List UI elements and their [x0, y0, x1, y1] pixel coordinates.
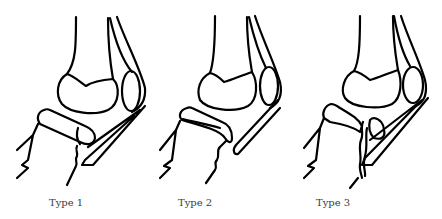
patella — [403, 67, 423, 103]
knee-drawing-type-2 — [160, 16, 281, 183]
femoral-condyle — [198, 72, 256, 110]
patellar-tendon — [82, 106, 145, 165]
knee-drawing-type-1 — [17, 17, 145, 185]
tibial-epiphysis — [38, 109, 95, 144]
panel-label-type-2: Type 2 — [178, 197, 212, 208]
panel-label-type-1: Type 1 — [49, 197, 83, 208]
femoral-condyle — [58, 74, 118, 113]
tibia-posterior-line — [304, 118, 358, 188]
tibia-anterior-line — [364, 128, 367, 176]
quadriceps-tendon-outer — [117, 17, 145, 112]
femoral-condyle — [343, 70, 401, 107]
tibia-anterior-line — [67, 146, 77, 185]
femur-shaft-anterior-line — [354, 16, 360, 71]
panel-label-type-3: Type 3 — [316, 197, 350, 208]
femur-shaft-anterior-line — [67, 17, 76, 74]
epiphysis-fracture-line — [77, 128, 80, 144]
patella — [122, 71, 140, 111]
femur-shaft-anterior-line — [210, 16, 215, 73]
tibial-epiphysis — [323, 104, 362, 132]
knee-drawing-type-3 — [304, 16, 428, 188]
tibia-anterior-line — [206, 141, 226, 183]
fracture-classification-figure: Type 1 Type 2 Type 3 — [0, 0, 442, 219]
tibia-posterior-line — [17, 124, 38, 178]
knee-drawings — [0, 0, 442, 219]
tibia-posterior-line — [160, 121, 180, 178]
patella — [260, 67, 278, 105]
